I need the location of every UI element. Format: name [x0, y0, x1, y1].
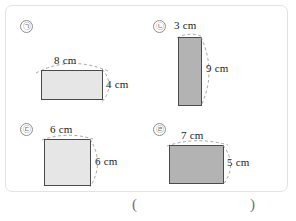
- figure-2-side-label: 9 cm: [206, 62, 229, 74]
- figure-3-side-label: 6 cm: [95, 155, 118, 167]
- figure-1-rect: [41, 70, 103, 100]
- figure-4-marker: ㉣: [153, 123, 166, 136]
- figure-4-rect: [169, 145, 224, 184]
- figure-1-side-label: 4 cm: [106, 78, 129, 90]
- figure-3-rect: [44, 139, 91, 186]
- worksheet: ㉠ 8 cm 4 cm ㉡ 3 cm 9 cm: [0, 0, 296, 221]
- figure-4-side-label: 5 cm: [227, 156, 250, 168]
- figure-1-marker: ㉠: [20, 20, 33, 33]
- figure-2-top-label: 3 cm: [174, 19, 197, 31]
- figure-3-marker: ㉢: [20, 123, 33, 136]
- figures-panel: ㉠ 8 cm 4 cm ㉡ 3 cm 9 cm: [5, 5, 288, 192]
- answer-close-paren: ): [250, 196, 255, 213]
- figure-2-marker: ㉡: [153, 20, 166, 33]
- answer-open-paren: (: [132, 196, 137, 213]
- answer-blank: ( ): [0, 196, 296, 221]
- figure-1-top-label: 8 cm: [54, 54, 77, 66]
